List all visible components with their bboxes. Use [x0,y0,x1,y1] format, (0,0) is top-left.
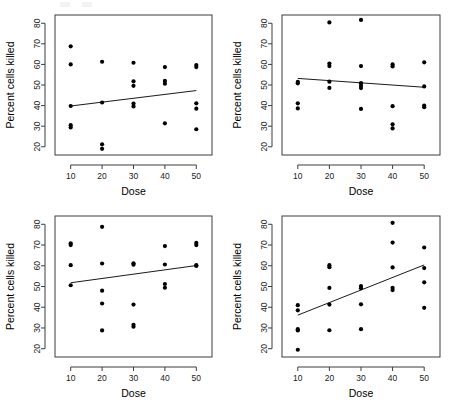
data-point [194,264,198,268]
x-axis-title: Dose [121,387,146,399]
data-point [327,286,331,290]
y-tick-label: 60 [259,59,269,69]
panel-bottom-right: 203040506070801020304050DosePercent cell… [227,201,455,403]
data-point [391,126,395,130]
data-point [327,64,331,68]
x-tick-label: 10 [293,171,303,181]
y-tick-label: 20 [32,142,42,152]
data-point [422,60,426,64]
y-tick-label: 50 [32,282,42,292]
y-tick-label: 70 [259,240,269,250]
data-point [131,104,135,108]
scatter-plot-grid: 203040506070801020304050DosePercent cell… [0,0,455,403]
y-tick-label: 30 [32,323,42,333]
data-point [327,265,331,269]
data-point [131,61,135,65]
x-tick-label: 20 [97,373,107,383]
data-point [194,101,198,105]
data-point [391,221,395,225]
y-tick-label: 80 [32,219,42,229]
data-point [100,328,104,332]
panel-top-left-svg: 203040506070801020304050DosePercent cell… [0,0,227,201]
y-tick-label: 40 [259,302,269,312]
data-point [391,265,395,269]
y-tick-label: 40 [259,101,269,111]
y-tick-label: 60 [259,261,269,271]
y-tick-label: 20 [32,344,42,354]
panel-top-right: 203040506070801020304050DosePercent cell… [227,0,455,201]
x-tick-label: 30 [129,171,139,181]
data-point [100,301,104,305]
x-tick-label: 20 [325,373,335,383]
x-tick-label: 20 [97,171,107,181]
data-point [327,86,331,90]
data-point [100,100,104,104]
y-tick-label: 80 [259,18,269,28]
data-point [422,245,426,249]
data-point [422,105,426,109]
data-point [327,80,331,84]
data-point [296,106,300,110]
x-tick-label: 50 [419,171,429,181]
x-tick-label: 40 [160,171,170,181]
data-point [163,121,167,125]
data-point [327,302,331,306]
data-point [100,261,104,265]
data-point [100,142,104,146]
data-point [163,65,167,69]
y-axis-title: Percent cells killed [4,243,16,330]
x-axis-title: Dose [349,387,374,399]
y-tick-label: 30 [259,121,269,131]
data-point [163,286,167,290]
data-point [194,65,198,69]
data-point [391,64,395,68]
x-tick-label: 10 [293,373,303,383]
top-edge-artifact [60,2,100,7]
y-tick-label: 80 [32,18,42,28]
data-point [296,81,300,85]
data-point [422,306,426,310]
y-tick-label: 20 [259,142,269,152]
y-tick-label: 50 [32,80,42,90]
data-point [100,60,104,64]
x-tick-label: 30 [129,373,139,383]
data-point [100,225,104,229]
x-tick-label: 10 [66,171,76,181]
x-tick-label: 40 [388,171,398,181]
data-point [131,84,135,88]
panel-bottom-left-svg: 203040506070801020304050DosePercent cell… [0,201,227,403]
data-point [296,308,300,312]
data-point [359,107,363,111]
y-tick-label: 80 [259,219,269,229]
panel-top-right-svg: 203040506070801020304050DosePercent cell… [227,0,455,201]
data-point [69,283,73,287]
x-tick-label: 10 [66,373,76,383]
data-point [391,288,395,292]
panel-bottom-left: 203040506070801020304050DosePercent cell… [0,201,227,403]
x-axis-title: Dose [121,185,146,197]
y-tick-label: 20 [259,344,269,354]
panel-bottom-right-svg: 203040506070801020304050DosePercent cell… [227,201,455,403]
data-point [359,18,363,22]
data-point [131,79,135,83]
y-tick-label: 30 [259,323,269,333]
data-point [131,263,135,267]
y-tick-label: 50 [259,282,269,292]
y-axis-title: Percent cells killed [4,41,16,128]
x-tick-label: 50 [192,171,202,181]
plot-frame [55,216,212,357]
data-point [327,20,331,24]
data-point [194,107,198,111]
y-axis-title: Percent cells killed [231,41,243,128]
y-tick-label: 60 [32,261,42,271]
x-axis-title: Dose [349,185,374,197]
regression-line [71,266,197,283]
x-tick-label: 20 [325,171,335,181]
y-axis-title: Percent cells killed [231,243,243,330]
x-tick-label: 40 [160,373,170,383]
y-tick-label: 50 [259,80,269,90]
data-point [194,127,198,131]
y-tick-label: 60 [32,59,42,69]
data-point [163,82,167,86]
data-point [100,147,104,151]
